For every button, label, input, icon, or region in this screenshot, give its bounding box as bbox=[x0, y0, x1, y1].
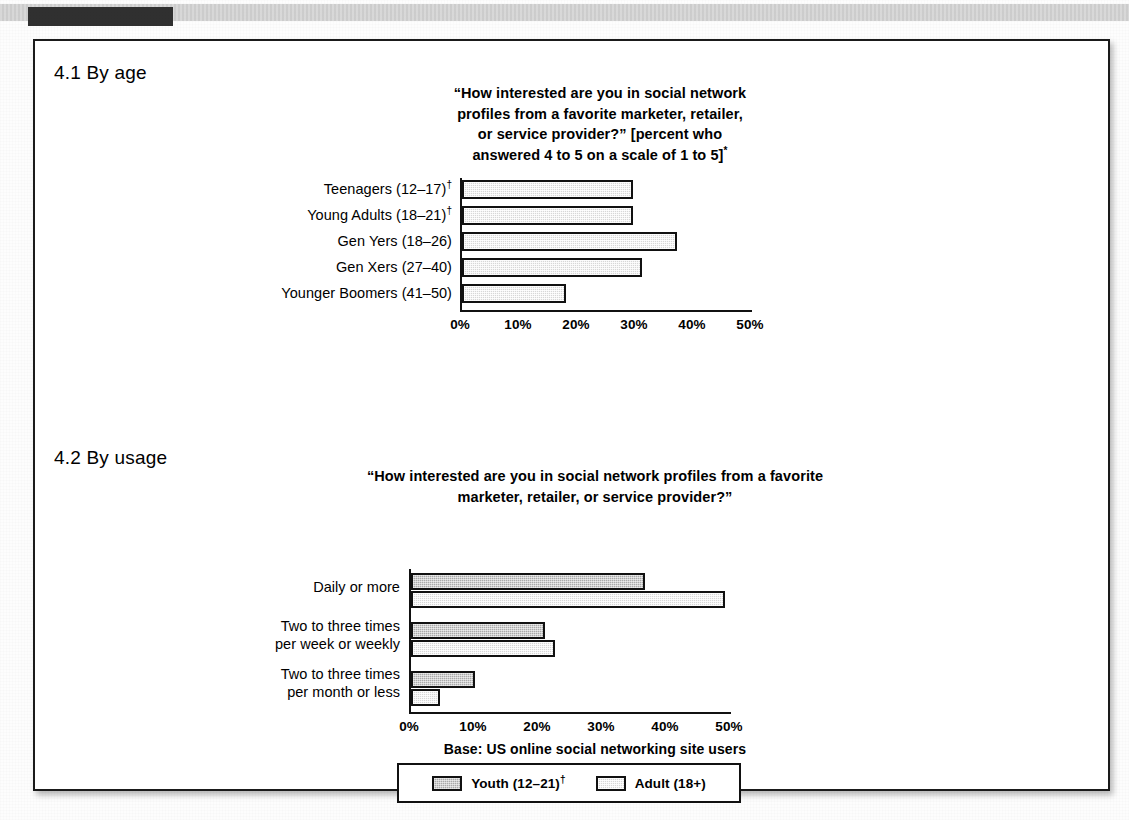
legend-label-youth-marker: † bbox=[560, 773, 566, 784]
category-label-young-adults-marker: † bbox=[446, 205, 452, 216]
chart-by-usage: “How interested are you in social networ… bbox=[35, 426, 1104, 786]
bar-young-adults bbox=[462, 206, 633, 225]
category-label-monthly-line-2: per month or less bbox=[287, 684, 400, 700]
chart-by-age-title: “How interested are you in social networ… bbox=[390, 83, 810, 165]
category-label-teenagers-marker: † bbox=[446, 179, 452, 190]
category-label-weekly-line-1: Two to three times bbox=[281, 618, 400, 634]
xtick-by-usage-40: 40% bbox=[642, 719, 688, 734]
category-label-weekly-line-2: per week or weekly bbox=[275, 636, 400, 652]
xtick-by-usage-30: 30% bbox=[578, 719, 624, 734]
xtick-by-usage-50: 50% bbox=[706, 719, 752, 734]
plot-area-by-age bbox=[460, 178, 752, 312]
category-label-young-adults: Young Adults (18–21)† bbox=[60, 207, 452, 223]
chart-by-age-title-line-1: “How interested are you in social networ… bbox=[454, 85, 747, 101]
category-label-monthly: Two to three times per month or less bbox=[60, 666, 400, 701]
xtick-by-usage-0: 0% bbox=[386, 719, 432, 734]
chart-by-age-title-line-2: profiles from a favorite marketer, retai… bbox=[457, 106, 743, 122]
chart-by-age-title-footnote-marker: * bbox=[724, 145, 728, 156]
legend-label-youth: Youth (12–21)† bbox=[471, 776, 566, 791]
category-label-weekly: Two to three times per week or weekly bbox=[60, 618, 400, 653]
legend-entry-adult: Adult (18+) bbox=[596, 776, 706, 791]
chart-by-age-title-line-4: answered 4 to 5 on a scale of 1 to 5] bbox=[472, 147, 723, 163]
legend-entry-youth: Youth (12–21)† bbox=[432, 776, 566, 791]
legend-swatch-youth-icon bbox=[432, 776, 462, 791]
category-label-younger-boomers: Younger Boomers (41–50) bbox=[60, 285, 452, 301]
bar-daily-adult bbox=[411, 591, 725, 608]
xtick-by-age-50: 50% bbox=[727, 317, 773, 332]
running-head-black-tab bbox=[28, 7, 173, 26]
category-label-monthly-line-1: Two to three times bbox=[281, 666, 400, 682]
category-label-gen-xers: Gen Xers (27–40) bbox=[60, 259, 452, 275]
legend-label-youth-text: Youth (12–21) bbox=[471, 776, 560, 791]
xtick-by-usage-20: 20% bbox=[514, 719, 560, 734]
page-running-head-strip bbox=[0, 4, 1129, 21]
xtick-by-age-40: 40% bbox=[669, 317, 715, 332]
chart-by-usage-title-line-1: “How interested are you in social networ… bbox=[367, 468, 823, 484]
chart-by-age: “How interested are you in social networ… bbox=[35, 41, 1104, 401]
bar-gen-yers bbox=[462, 232, 677, 251]
bar-weekly-adult bbox=[411, 640, 555, 657]
category-label-teenagers: Teenagers (12–17)† bbox=[60, 181, 452, 197]
bar-teenagers bbox=[462, 180, 633, 199]
category-label-gen-yers: Gen Yers (18–26) bbox=[60, 233, 452, 249]
xtick-by-age-10: 10% bbox=[495, 317, 541, 332]
chart-legend: Youth (12–21)† Adult (18+) bbox=[397, 763, 741, 803]
xtick-by-age-20: 20% bbox=[553, 317, 599, 332]
base-note: Base: US online social networking site u… bbox=[285, 741, 905, 757]
chart-by-age-title-line-3: or service provider?” [percent who bbox=[478, 126, 722, 142]
chart-by-usage-title: “How interested are you in social networ… bbox=[285, 466, 905, 507]
category-label-young-adults-text: Young Adults (18–21) bbox=[307, 207, 446, 223]
category-label-teenagers-text: Teenagers (12–17) bbox=[324, 181, 447, 197]
bar-daily-youth bbox=[411, 573, 645, 590]
xtick-by-age-0: 0% bbox=[437, 317, 483, 332]
bar-weekly-youth bbox=[411, 622, 545, 639]
xtick-by-usage-10: 10% bbox=[450, 719, 496, 734]
plot-area-by-usage bbox=[409, 569, 731, 714]
bar-younger-boomers bbox=[462, 284, 566, 303]
bar-monthly-adult bbox=[411, 689, 440, 706]
figure-frame: 4.1 By age “How interested are you in so… bbox=[33, 39, 1110, 791]
legend-label-adult: Adult (18+) bbox=[635, 776, 706, 791]
category-label-daily-or-more: Daily or more bbox=[60, 579, 400, 595]
legend-swatch-adult-icon bbox=[596, 776, 626, 791]
bar-gen-xers bbox=[462, 258, 642, 277]
bar-monthly-youth bbox=[411, 671, 475, 688]
chart-by-usage-title-line-2: marketer, retailer, or service provider?… bbox=[458, 489, 733, 505]
xtick-by-age-30: 30% bbox=[611, 317, 657, 332]
